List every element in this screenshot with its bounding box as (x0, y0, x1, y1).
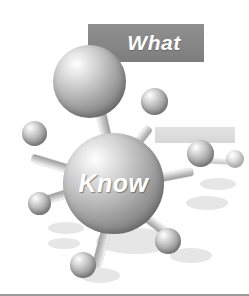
sphere-lower-right (155, 228, 181, 254)
sphere-far-right-pale (226, 150, 244, 168)
sphere-core-know: Know (63, 133, 164, 234)
sphere-left (22, 121, 47, 146)
sphere-top-large (53, 45, 126, 118)
sphere-lower-left (28, 192, 51, 215)
shadow-low-left (48, 238, 80, 249)
sphere-bottom (70, 252, 96, 278)
molecule-illustration: What Know (0, 0, 249, 296)
core-label: Know (63, 133, 164, 234)
sphere-right (187, 140, 214, 167)
shadow-mid-left (48, 222, 84, 234)
shadow-right-band (186, 196, 228, 210)
shadow-far-right (200, 178, 236, 190)
sphere-upper-right (141, 88, 168, 115)
